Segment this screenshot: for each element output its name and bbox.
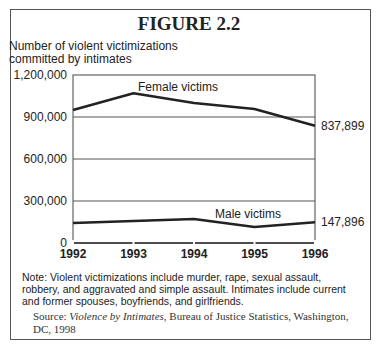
y-tick-label: 900,000	[24, 110, 68, 124]
figure-source: Source: Violence by Intimates, Bureau of…	[33, 310, 363, 336]
series-line-female	[73, 93, 315, 125]
y-tick-label: 1,200,000	[14, 68, 68, 82]
y-tick-label: 300,000	[24, 194, 68, 208]
x-tick-label: 1994	[181, 247, 208, 261]
x-tick-label: 1992	[60, 247, 87, 261]
figure-note: Note: Violent victimizations include mur…	[22, 271, 357, 307]
source-prefix: Source:	[33, 310, 69, 322]
end-value-label: 837,899	[321, 119, 365, 133]
series-label-female: Female victims	[138, 80, 218, 94]
series-label-male: Male victims	[215, 207, 281, 221]
source-title: Violence by Intimates	[69, 310, 163, 322]
x-tick-label: 1996	[302, 247, 329, 261]
x-tick-label: 1995	[241, 247, 268, 261]
y-tick-label: 600,000	[24, 152, 68, 166]
x-tick-label: 1993	[120, 247, 147, 261]
end-value-label: 147,896	[321, 215, 365, 229]
